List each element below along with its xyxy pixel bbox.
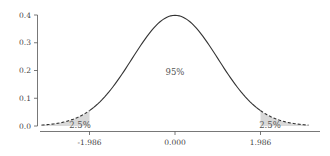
- right-tail-percent-label: 2.5%: [259, 120, 281, 130]
- y-axis: 0.00.10.20.30.4: [19, 11, 37, 131]
- center-percent-label: 95%: [166, 67, 185, 77]
- t-distribution-chart: 0.00.10.20.30.4 -1.9860.0001.986 95% 2.5…: [0, 0, 330, 156]
- x-tick-label: -1.986: [77, 138, 101, 147]
- x-tick-label: 1.986: [250, 138, 272, 147]
- y-tick-label: 0.3: [19, 38, 31, 47]
- x-axis: -1.9860.0001.986: [40, 132, 320, 148]
- y-tick-label: 0.1: [19, 94, 31, 103]
- y-tick-label: 0.2: [19, 66, 31, 75]
- y-tick-label: 0.4: [19, 11, 31, 20]
- left-tail-percent-label: 2.5%: [69, 120, 91, 130]
- y-tick-label: 0.0: [19, 122, 31, 131]
- density-curve-solid: [90, 15, 261, 110]
- x-tick-label: 0.000: [164, 138, 186, 147]
